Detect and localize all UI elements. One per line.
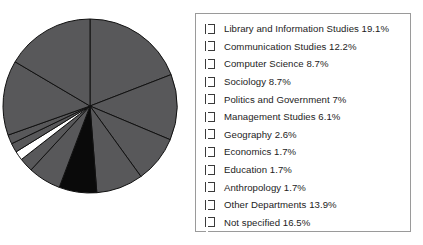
legend-label: Library and Information Studies 19.1% (224, 23, 389, 34)
legend-swatch-fill (206, 147, 208, 166)
legend-swatch-fill (206, 165, 208, 184)
legend-swatch-icon (205, 129, 215, 139)
legend-swatch-fill (206, 77, 208, 96)
legend-swatch-icon (205, 77, 215, 87)
legend-item[interactable]: Geography 2.6% (205, 126, 410, 144)
legend-item[interactable]: Sociology 8.7% (205, 73, 410, 91)
legend-swatch-icon (205, 165, 215, 175)
legend-swatch-fill (206, 24, 208, 43)
legend-label: Communication Studies 12.2% (224, 41, 357, 52)
legend-swatch-icon (205, 59, 215, 69)
legend-item[interactable]: Not specified 16.5% (205, 214, 410, 232)
legend-item[interactable]: Education 1.7% (205, 161, 410, 179)
legend-label: Not specified 16.5% (224, 217, 310, 228)
legend-label: Other Departments 13.9% (224, 199, 337, 210)
legend-item[interactable]: Management Studies 6.1% (205, 108, 410, 126)
legend-swatch-icon (205, 24, 215, 34)
legend-label: Geography 2.6% (224, 129, 297, 140)
legend-swatch-icon (205, 217, 215, 227)
legend-swatch-fill (206, 200, 208, 219)
legend-label: Politics and Government 7% (224, 94, 346, 105)
legend-swatch-fill (206, 129, 208, 148)
pie-svg (0, 0, 186, 245)
legend-item[interactable]: Politics and Government 7% (205, 90, 410, 108)
legend-label: Computer Science 8.7% (224, 58, 329, 69)
legend-item[interactable]: Economics 1.7% (205, 143, 410, 161)
legend-swatch-fill (206, 59, 208, 78)
legend-swatch-icon (205, 41, 215, 51)
legend-swatch-fill (206, 217, 208, 236)
legend-label: Economics 1.7% (224, 146, 296, 157)
legend-swatch-fill (206, 112, 208, 131)
legend-item[interactable]: Library and Information Studies 19.1% (205, 20, 410, 38)
legend-swatch-icon (205, 94, 215, 104)
legend-label: Sociology 8.7% (224, 76, 291, 87)
legend-swatch-icon (205, 182, 215, 192)
pie-plot-area (0, 0, 186, 245)
legend-swatch-fill (206, 94, 208, 113)
legend-swatch-fill (206, 182, 208, 201)
legend-item[interactable]: Other Departments 13.9% (205, 196, 410, 214)
legend-item[interactable]: Communication Studies 12.2% (205, 38, 410, 56)
legend-label: Management Studies 6.1% (224, 111, 340, 122)
legend-item[interactable]: Computer Science 8.7% (205, 55, 410, 73)
pie-chart-figure: Library and Information Studies 19.1%Com… (0, 0, 423, 245)
legend-swatch-icon (205, 147, 215, 157)
legend-item[interactable]: Anthropology 1.7% (205, 178, 410, 196)
legend-swatch-icon (205, 200, 215, 210)
chart-legend: Library and Information Studies 19.1%Com… (195, 13, 411, 232)
legend-swatch-icon (205, 112, 215, 122)
legend-swatch-fill (206, 41, 208, 60)
legend-label: Education 1.7% (224, 164, 292, 175)
legend-label: Anthropology 1.7% (224, 182, 306, 193)
